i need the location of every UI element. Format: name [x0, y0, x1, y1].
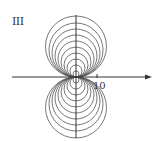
panel-label: III [12, 15, 24, 28]
diagram-panel: III 10 [0, 0, 163, 141]
x-tick-label: 10 [93, 80, 106, 91]
x-axis-arrow-icon [145, 75, 152, 80]
circle-family-plot [0, 0, 163, 141]
